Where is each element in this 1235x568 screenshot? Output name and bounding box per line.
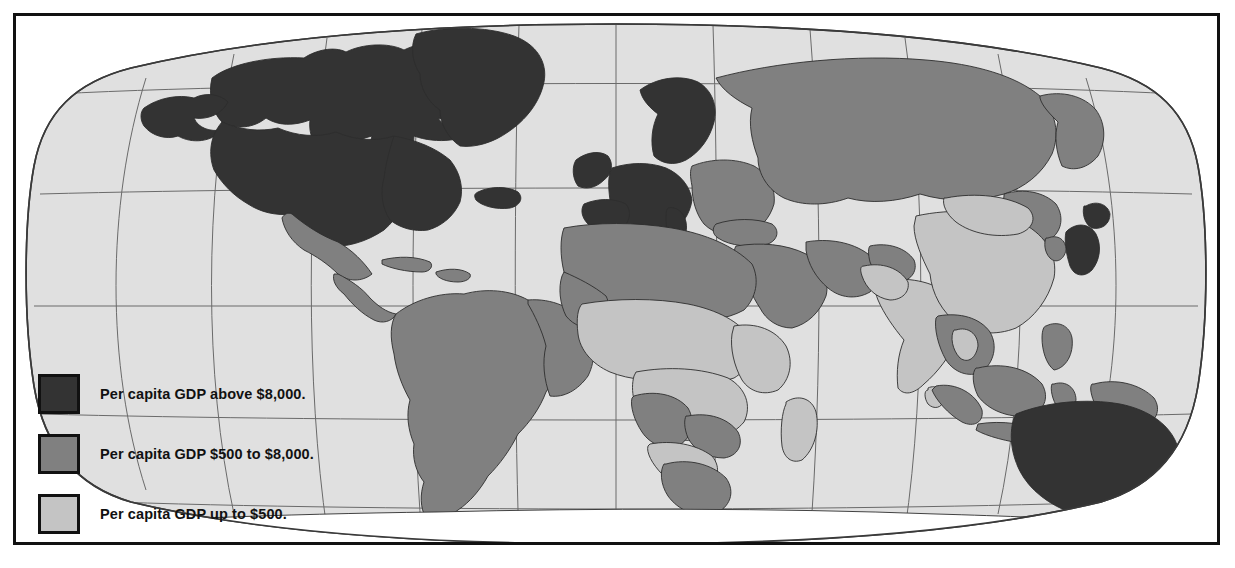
legend-item-low: Per capita GDP up to $500. <box>38 494 314 534</box>
legend-item-high: Per capita GDP above $8,000. <box>38 374 314 414</box>
legend-label-low: Per capita GDP up to $500. <box>100 506 287 522</box>
region-new-zealand-south <box>1155 492 1180 520</box>
region-japan-north <box>1083 203 1110 228</box>
map-frame-border: Per capita GDP above $8,000. Per capita … <box>13 13 1220 545</box>
region-soviet-union <box>716 58 1056 204</box>
legend-swatch-mid <box>38 434 80 474</box>
map-legend: Per capita GDP above $8,000. Per capita … <box>38 374 314 554</box>
world-gdp-map-figure: Per capita GDP above $8,000. Per capita … <box>0 0 1235 568</box>
legend-swatch-low <box>38 494 80 534</box>
region-japan <box>1065 225 1099 275</box>
legend-label-high: Per capita GDP above $8,000. <box>100 386 306 402</box>
region-new-zealand <box>1179 466 1204 495</box>
legend-swatch-high <box>38 374 80 414</box>
legend-item-mid: Per capita GDP $500 to $8,000. <box>38 434 314 474</box>
region-tasmania <box>1131 514 1154 533</box>
legend-label-mid: Per capita GDP $500 to $8,000. <box>100 446 314 462</box>
